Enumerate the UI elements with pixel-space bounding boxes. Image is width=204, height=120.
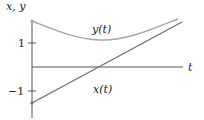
x-curve-label: x(t) [93,83,112,96]
y-start-point [30,19,33,22]
tick-label-1: 1 [18,37,25,50]
y-curve-label: y(t) [91,23,111,36]
phase-plot: x, y t 1 −1 y(t) x(t) [0,0,204,120]
y-axis-label: x, y [6,0,26,13]
x-start-point [30,101,33,104]
t-axis-label: t [188,61,193,74]
tick-label-neg1: −1 [8,85,24,98]
